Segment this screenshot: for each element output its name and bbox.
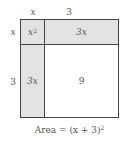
cell-3x-top: 3x — [45, 20, 118, 45]
top-label-x: x — [27, 7, 39, 17]
cell-x-squared: x2 — [21, 20, 45, 45]
area-caption-exponent: 2 — [101, 124, 105, 131]
area-caption: Area = (x + 3)2 — [20, 125, 119, 135]
top-label-3: 3 — [62, 7, 76, 17]
area-square: x2 3x 3x 9 — [20, 19, 119, 118]
cell-x-squared-exponent: 2 — [33, 27, 37, 34]
cell-9-label: 9 — [79, 76, 85, 86]
cell-3x-top-label: 3x — [76, 27, 87, 37]
cell-3x-left: 3x — [21, 45, 45, 117]
cell-9: 9 — [45, 45, 118, 117]
side-label-x: x — [8, 27, 18, 37]
area-caption-text: Area = (x + 3) — [35, 125, 101, 135]
cell-3x-left-label: 3x — [27, 76, 38, 86]
side-label-3: 3 — [8, 77, 18, 87]
